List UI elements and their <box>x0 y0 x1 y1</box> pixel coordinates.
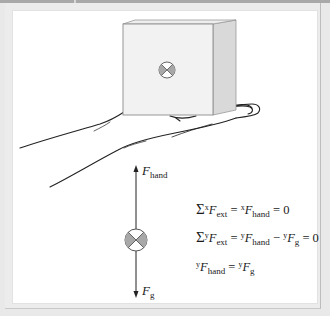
equation-sum-x: ΣxFext = xFhand = 0 <box>196 201 289 219</box>
arrowhead-up-icon <box>134 165 139 172</box>
center-of-mass-icon <box>159 62 175 78</box>
arrowhead-down-icon <box>134 291 139 298</box>
hand-illustration <box>20 104 260 187</box>
object-point-icon <box>125 229 147 251</box>
diagram-canvas <box>0 0 330 316</box>
equation-sum-y: ΣyFext = yFhand − yFg = 0 <box>196 229 319 247</box>
equation-equilibrium: yFhand = yFg <box>196 260 255 276</box>
cube-side-face <box>213 20 236 115</box>
free-body-diagram <box>125 165 147 298</box>
label-f-g: Fg <box>142 283 154 300</box>
cube <box>123 20 236 115</box>
label-f-hand: Fhand <box>142 163 167 180</box>
